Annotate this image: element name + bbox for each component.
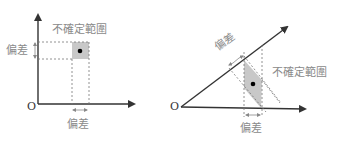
x-deviation-label-right: 偏差 (240, 123, 262, 134)
y-deviation-label-left: 偏差 (6, 45, 28, 56)
oblique-deviation-arrow-icon (229, 56, 243, 65)
uncertainty-region-label-right: 不確定範圍 (272, 67, 327, 78)
x-axis-right (181, 107, 305, 109)
measurement-dot-right (251, 82, 256, 87)
measurement-dot (78, 49, 83, 54)
origin-label-right: O (170, 101, 179, 112)
x-deviation-label-left: 偏差 (67, 119, 89, 130)
uncertainty-region-label-left: 不確定範圍 (52, 24, 107, 35)
origin-label-left: O (27, 101, 36, 112)
